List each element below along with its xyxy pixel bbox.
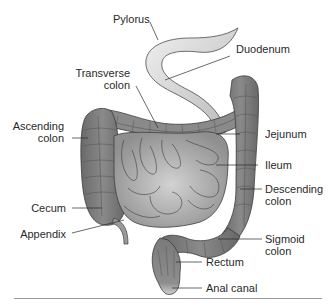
- label-ascending-colon-line1: Ascending: [0, 120, 64, 132]
- bottom-divider: [14, 298, 322, 299]
- label-jejunum: Jejunum: [265, 128, 307, 140]
- label-rectum: Rectum: [206, 256, 244, 268]
- label-appendix: Appendix: [0, 228, 66, 240]
- label-ileum: Ileum: [265, 159, 292, 171]
- label-sigmoid-colon-line1: Sigmoid: [265, 233, 305, 245]
- label-transverse-colon-line2: colon: [62, 79, 130, 91]
- label-descending-colon-line2: colon: [265, 195, 291, 207]
- label-ascending-colon-line2: colon: [0, 132, 64, 144]
- label-duodenum: Duodenum: [236, 43, 290, 55]
- label-pylorus: Pylorus: [113, 13, 150, 25]
- label-cecum: Cecum: [0, 202, 66, 214]
- label-anal-canal: Anal canal: [206, 282, 257, 294]
- label-transverse-colon-line1: Transverse: [62, 67, 130, 79]
- label-descending-colon-line1: Descending: [265, 183, 323, 195]
- small-intestine: [114, 132, 228, 228]
- label-sigmoid-colon-line2: colon: [265, 245, 291, 257]
- appendix-shape: [112, 218, 128, 244]
